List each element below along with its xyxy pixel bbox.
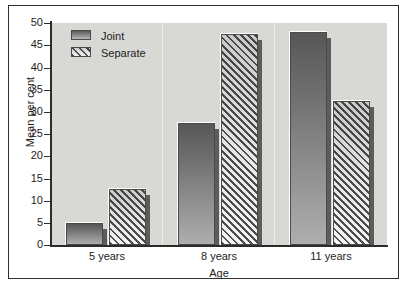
y-tick-40 [44,68,50,69]
y-tick-5 [44,223,50,224]
y-tick-10 [44,201,50,202]
bar-joint-11-years[interactable] [290,32,331,245]
y-tick-35 [44,90,50,91]
bar-joint-5-years[interactable] [66,223,107,245]
x-axis-line [50,245,388,247]
bar-body [178,123,215,245]
bar-body [66,223,103,245]
y-tick-label-0: 0 [9,239,43,250]
y-tick-50 [44,23,50,24]
bar-separate-11-years[interactable] [333,101,374,245]
bar-body [109,189,146,245]
y-tick-label-50: 50 [9,17,43,28]
legend-label-joint: Joint [101,30,124,42]
bar-joint-8-years[interactable] [178,123,219,245]
y-tick-45 [44,45,50,46]
bar-separate-8-years[interactable] [221,34,262,245]
y-tick-0 [44,245,50,246]
bar-body [333,101,370,245]
bar-shadow [103,229,107,245]
bar-body [290,32,327,245]
bar-shadow [327,38,331,245]
legend-swatch-separate-fill [71,47,91,57]
x-tick-label-5-years: 5 years [51,250,163,262]
chart-figure: 50 45 40 35 30 25 20 15 10 5 0 Mean per … [0,0,407,285]
y-tick-20 [44,156,50,157]
y-axis-title: Mean per cent [24,47,36,177]
legend-swatch-joint [71,30,95,42]
y-tick-label-10: 10 [9,195,43,206]
legend-swatch-joint-fill [71,30,91,40]
figure-frame: 50 45 40 35 30 25 20 15 10 5 0 Mean per … [8,5,399,279]
bar-body [221,34,258,245]
legend-label-separate: Separate [101,47,146,59]
legend-swatch-separate [71,47,95,59]
bar-shadow [146,195,150,245]
group-separator [162,23,163,245]
chart-legend: Joint Separate [71,28,146,62]
y-tick-30 [44,112,50,113]
group-separator [274,23,275,245]
y-tick-25 [44,134,50,135]
x-tick-label-8-years: 8 years [163,250,275,262]
bar-shadow [370,107,374,245]
y-axis-line [50,21,52,247]
x-axis-title: Age [51,267,387,279]
legend-item-joint[interactable]: Joint [71,28,146,43]
legend-item-separate[interactable]: Separate [71,45,146,60]
y-tick-label-5: 5 [9,217,43,228]
bar-shadow [215,129,219,245]
y-tick-15 [44,179,50,180]
bar-shadow [258,40,262,245]
bar-separate-5-years[interactable] [109,189,150,245]
x-tick-label-11-years: 11 years [275,250,387,262]
